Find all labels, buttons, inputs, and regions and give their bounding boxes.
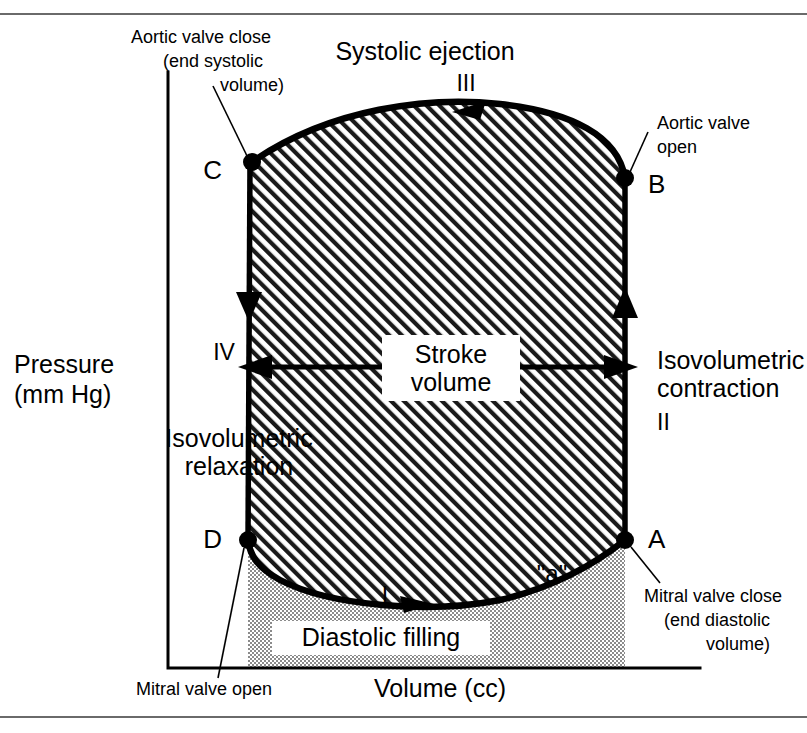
y-axis-label-line2: (mm Hg) — [14, 380, 111, 408]
isovolumetric-relaxation-label-line1: Isovolumetric — [165, 424, 312, 452]
point-c-callout-line2: (end systolic — [163, 51, 263, 71]
stroke-volume-label-line1: Stroke — [415, 340, 487, 368]
point-b-label: B — [648, 169, 665, 199]
isovolumetric-relaxation-line — [248, 162, 250, 540]
systolic-ejection-label: Systolic ejection — [335, 37, 514, 65]
stroke-volume-label-line2: volume — [411, 368, 492, 396]
point-b-marker — [616, 169, 634, 187]
diastolic-filling-annotation: Diastolic filling — [272, 621, 490, 655]
pv-loop-figure: C B D A Aortic valve close (end systolic… — [0, 0, 807, 733]
point-c-label: C — [203, 155, 222, 185]
systolic-ejection-roman: III — [456, 70, 475, 96]
isovolumetric-relaxation-label-line2: relaxation — [185, 452, 293, 480]
isovolumetric-contraction-label-line2: contraction — [657, 374, 779, 402]
x-axis-label: Volume (cc) — [374, 674, 506, 702]
diastolic-filling-label: Diastolic filling — [302, 623, 460, 651]
point-a-label: A — [648, 524, 666, 554]
point-b-leader — [630, 132, 648, 172]
point-c-marker — [243, 153, 261, 171]
isovolumetric-contraction-roman: II — [657, 409, 670, 435]
point-c-leader — [213, 86, 248, 158]
point-a-callout-line2: (end diastolic — [664, 610, 770, 630]
a-wave-label: "a" — [537, 560, 567, 587]
point-a-marker — [616, 531, 634, 549]
point-c-callout-line1: Aortic valve close — [131, 27, 271, 47]
y-axis-label-line1: Pressure — [14, 350, 114, 378]
point-c-callout-line3: volume) — [220, 75, 284, 95]
diastolic-filling-roman: I — [382, 582, 388, 608]
isovolumetric-contraction-label-line1: Isovolumetric — [657, 346, 804, 374]
point-d-callout-line1: Mitral valve open — [136, 679, 272, 699]
point-a-callout-line1: Mitral valve close — [644, 586, 782, 606]
point-b-callout-line2: open — [657, 137, 697, 157]
point-d-leader — [218, 548, 244, 678]
point-d-label: D — [203, 524, 222, 554]
point-a-callout-line3: volume) — [706, 634, 770, 654]
pv-loop-svg: C B D A Aortic valve close (end systolic… — [0, 0, 807, 733]
isovolumetric-relaxation-roman: IV — [213, 339, 235, 365]
point-d-marker — [239, 531, 257, 549]
point-b-callout-line1: Aortic valve — [657, 113, 750, 133]
